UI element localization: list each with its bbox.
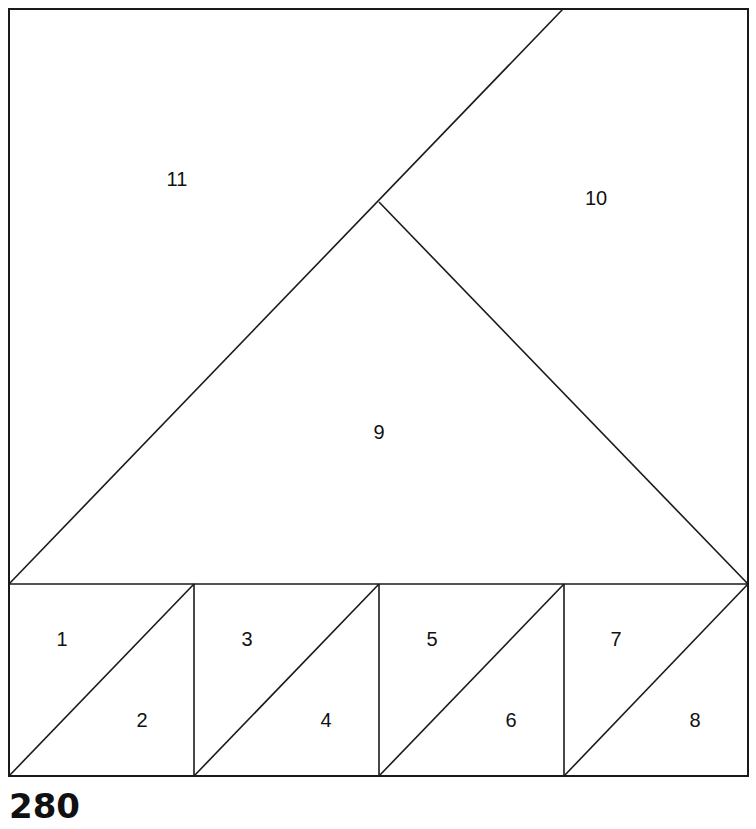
piece-label-7: 7: [610, 628, 621, 650]
piece-label-10: 10: [585, 187, 607, 209]
block-number-label: 280: [9, 786, 80, 826]
hst-diagonal-4: [564, 584, 748, 776]
long-diagonal-line: [9, 9, 563, 584]
piece-label-6: 6: [505, 709, 516, 731]
hst-diagonal-2: [194, 584, 379, 776]
piece-label-4: 4: [320, 709, 331, 731]
hst-diagonal-3: [379, 584, 564, 776]
hst-diagonal-1: [9, 584, 194, 776]
piece-label-5: 5: [426, 628, 437, 650]
piece-label-1: 1: [56, 628, 67, 650]
piece-label-2: 2: [136, 709, 147, 731]
piece-label-8: 8: [689, 709, 700, 731]
triangle-right-edge: [379, 202, 748, 584]
quilt-block-diagram: 1 2 3 4 5 6 7 8 9 10 11: [0, 0, 756, 829]
piece-label-3: 3: [241, 628, 252, 650]
piece-label-11: 11: [167, 168, 188, 190]
piece-label-9: 9: [373, 421, 384, 443]
